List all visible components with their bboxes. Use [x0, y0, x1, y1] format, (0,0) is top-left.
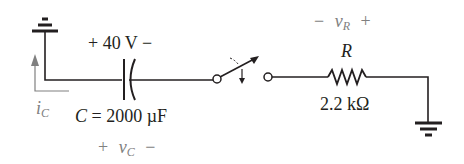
- capacitor-vc-label: + vC −: [98, 137, 155, 160]
- circuit-diagram: + 40 V − iC C = 2000 µF + vC − − vR + R …: [0, 0, 464, 164]
- ground-symbol-right: [415, 123, 442, 135]
- resistor-vr-label: − vR +: [314, 11, 371, 34]
- wire-right: [366, 77, 428, 122]
- current-arrow-icon: [31, 54, 69, 91]
- resistor-symbol-label: R: [340, 41, 352, 61]
- ground-symbol-left: [32, 19, 58, 31]
- resistor-symbol: [328, 70, 366, 84]
- switch-symbol: [213, 56, 272, 84]
- current-label: iC: [36, 98, 50, 120]
- resistor-value-label: 2.2 kΩ: [320, 94, 369, 114]
- capacitance-label: C = 2000 µF: [75, 106, 167, 126]
- capacitor-voltage-label: + 40 V −: [88, 33, 152, 53]
